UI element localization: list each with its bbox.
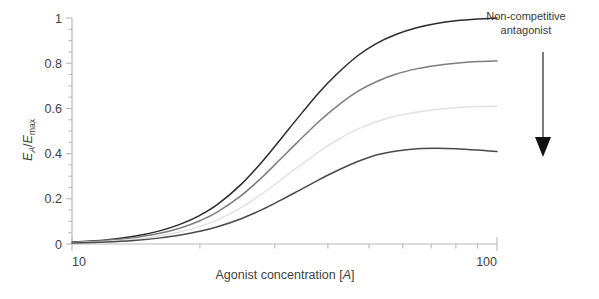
curve-series-3 <box>72 148 497 243</box>
annotation-line-1: Non-competitive <box>486 10 565 22</box>
curve-series-0 <box>72 18 497 242</box>
y-tick-label: 1 <box>55 12 62 26</box>
y-tick-label: 0.2 <box>45 192 62 206</box>
down-arrow-icon <box>535 137 551 157</box>
axis-lines <box>72 18 497 244</box>
x-tick-label: 10 <box>72 255 86 269</box>
x-tick-label: 100 <box>476 255 497 269</box>
y-axis-tick-labels: 00.20.40.60.81 <box>45 12 62 252</box>
y-tick-label: 0.4 <box>45 147 62 161</box>
svg-text:Agonist concentration [A]: Agonist concentration [A] <box>216 268 355 282</box>
dose-response-plot: 00.20.40.60.81 10100 EA/Emax Agonist con… <box>0 0 599 299</box>
x-title-tail: ] <box>351 268 354 282</box>
curve-series-1 <box>72 61 497 243</box>
curve-series-2 <box>72 106 497 243</box>
x-axis-tick-labels: 10100 <box>72 255 497 269</box>
annotation-line-2: antagonist <box>501 24 552 36</box>
y-axis-title: EA/Emax <box>21 118 37 161</box>
x-title-main: Agonist concentration [ <box>216 268 344 282</box>
chart-figure: 00.20.40.60.81 10100 EA/Emax Agonist con… <box>0 0 599 299</box>
x-axis-title: Agonist concentration [A] <box>216 268 355 282</box>
y-axis-ticks <box>66 18 72 244</box>
y-tick-label: 0.8 <box>45 57 62 71</box>
y-tick-label: 0.6 <box>45 102 62 116</box>
annotation-group: Non-competitive antagonist <box>486 10 565 157</box>
dose-response-curves <box>72 18 497 243</box>
y-tick-label: 0 <box>55 238 62 252</box>
y-title-sub2: max <box>27 118 37 135</box>
svg-text:EA/Emax: EA/Emax <box>21 118 37 161</box>
x-title-italic: A <box>342 268 351 282</box>
